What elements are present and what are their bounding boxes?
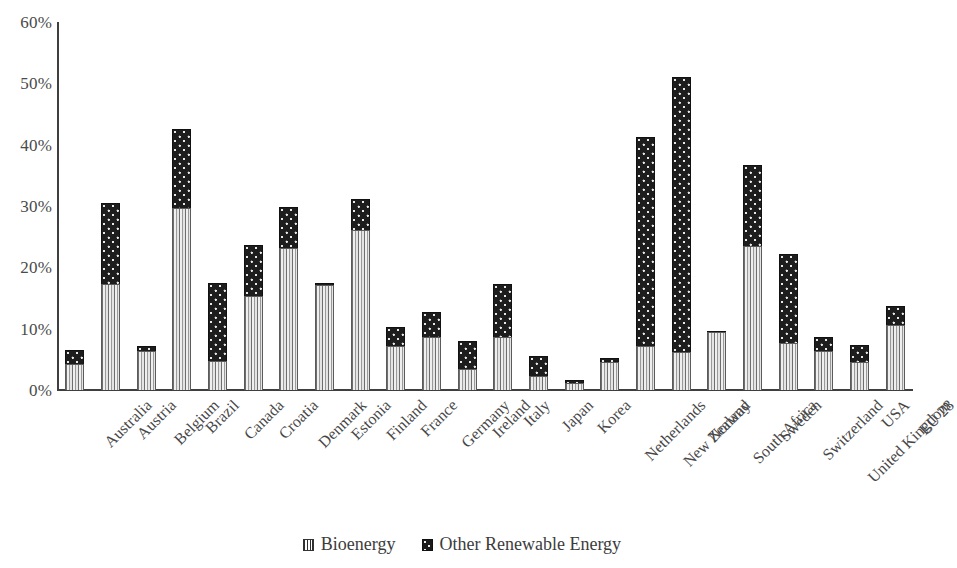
- bar-group: [699, 22, 735, 390]
- bar-segment-bioenergy: [565, 383, 584, 390]
- bar-group: [735, 22, 771, 390]
- x-axis-category-label: USA: [878, 397, 912, 431]
- bar-segment-other-renewable-energy: [101, 203, 120, 284]
- bar-segment-bioenergy: [529, 376, 548, 390]
- plot-area: [57, 22, 913, 390]
- bar-segment-bioenergy: [65, 364, 84, 390]
- bar-group: [235, 22, 271, 390]
- bar-segment-other-renewable-energy: [672, 77, 691, 352]
- bar-segment-other-renewable-energy: [172, 129, 191, 208]
- bar-group: [449, 22, 485, 390]
- bar-segment-other-renewable-energy: [208, 283, 227, 360]
- bar-segment-other-renewable-energy: [386, 327, 405, 346]
- y-axis-tick-label: 10%: [0, 321, 52, 338]
- bar-group: [414, 22, 450, 390]
- bar-segment-other-renewable-energy: [707, 331, 726, 333]
- bar-segment-bioenergy: [850, 362, 869, 390]
- bar-segment-other-renewable-energy: [279, 207, 298, 247]
- bar-segment-other-renewable-energy: [850, 345, 869, 362]
- bar-segment-bioenergy: [422, 337, 441, 390]
- bar-group: [164, 22, 200, 390]
- legend-item-other-renewable-energy: Other Renewable Energy: [422, 534, 622, 555]
- bar-segment-bioenergy: [351, 230, 370, 390]
- bar-group: [556, 22, 592, 390]
- x-axis-category-label: Switzerland: [820, 397, 886, 463]
- x-axis-category-label: Norway: [705, 397, 753, 445]
- bar-group: [307, 22, 343, 390]
- y-axis-tick-label: 0%: [0, 382, 52, 399]
- bar-group: [485, 22, 521, 390]
- bar-segment-other-renewable-energy: [779, 254, 798, 344]
- bar-group: [93, 22, 129, 390]
- bars-layer: [57, 22, 913, 390]
- bar-segment-other-renewable-energy: [743, 165, 762, 246]
- y-axis-tick-label: 40%: [0, 137, 52, 154]
- dotted-swatch-icon: [422, 539, 433, 551]
- bar-segment-bioenergy: [743, 246, 762, 390]
- y-axis-tick-label: 50%: [0, 75, 52, 92]
- y-axis-tick-label: 60%: [0, 14, 52, 31]
- bar-group: [57, 22, 93, 390]
- bar-segment-bioenergy: [172, 208, 191, 390]
- bar-segment-other-renewable-energy: [493, 284, 512, 337]
- bar-segment-bioenergy: [137, 351, 156, 390]
- bar-group: [378, 22, 414, 390]
- y-axis-tick-label: 30%: [0, 198, 52, 215]
- bar-segment-bioenergy: [707, 332, 726, 390]
- x-axis-category-label: Canada: [241, 397, 287, 443]
- legend-label-bioenergy: Bioenergy: [321, 534, 396, 555]
- bar-segment-other-renewable-energy: [422, 312, 441, 337]
- bar-group: [770, 22, 806, 390]
- bar-group: [663, 22, 699, 390]
- bar-segment-bioenergy: [458, 369, 477, 390]
- bar-group: [877, 22, 913, 390]
- bar-segment-bioenergy: [779, 343, 798, 390]
- bar-segment-other-renewable-energy: [600, 358, 619, 362]
- bar-segment-bioenergy: [208, 361, 227, 390]
- bar-segment-other-renewable-energy: [565, 380, 584, 382]
- bar-segment-bioenergy: [279, 248, 298, 390]
- bar-segment-other-renewable-energy: [65, 350, 84, 364]
- bar-segment-other-renewable-energy: [458, 341, 477, 369]
- bar-segment-other-renewable-energy: [814, 337, 833, 352]
- bar-group: [806, 22, 842, 390]
- bar-group: [628, 22, 664, 390]
- bar-segment-bioenergy: [244, 296, 263, 390]
- bar-segment-other-renewable-energy: [137, 346, 156, 350]
- bar-segment-other-renewable-energy: [529, 356, 548, 376]
- bar-group: [128, 22, 164, 390]
- bar-segment-bioenergy: [886, 325, 905, 390]
- x-axis-category-label: EU 28: [916, 397, 957, 438]
- bar-group: [521, 22, 557, 390]
- bar-segment-bioenergy: [315, 285, 334, 390]
- vertical-stripe-swatch-icon: [303, 539, 314, 551]
- bar-group: [271, 22, 307, 390]
- bar-segment-other-renewable-energy: [244, 245, 263, 297]
- bar-group: [342, 22, 378, 390]
- bar-segment-other-renewable-energy: [351, 199, 370, 230]
- bar-segment-bioenergy: [386, 346, 405, 390]
- bar-segment-bioenergy: [814, 351, 833, 390]
- bar-group: [842, 22, 878, 390]
- legend-item-bioenergy: Bioenergy: [303, 534, 396, 555]
- y-axis-tick-label: 20%: [0, 259, 52, 276]
- bar-segment-bioenergy: [493, 337, 512, 390]
- bar-segment-other-renewable-energy: [886, 306, 905, 325]
- legend-label-other-renewable-energy: Other Renewable Energy: [440, 534, 622, 555]
- bar-segment-other-renewable-energy: [315, 283, 334, 284]
- bar-group: [592, 22, 628, 390]
- x-axis-category-label: Japan: [558, 397, 595, 434]
- x-axis-category-labels: AustraliaAustriaBelgiumBrazilCanadaCroat…: [57, 391, 913, 501]
- bar-segment-bioenergy: [101, 284, 120, 390]
- x-axis-category-label: Korea: [595, 397, 634, 436]
- y-axis-tick-labels: 60%50%40%30%20%10%0%: [0, 0, 52, 568]
- bar-segment-bioenergy: [600, 362, 619, 390]
- bar-segment-other-renewable-energy: [636, 137, 655, 346]
- bar-segment-bioenergy: [636, 346, 655, 390]
- bar-segment-bioenergy: [672, 352, 691, 390]
- bar-group: [200, 22, 236, 390]
- chart-legend: Bioenergy Other Renewable Energy: [0, 534, 924, 555]
